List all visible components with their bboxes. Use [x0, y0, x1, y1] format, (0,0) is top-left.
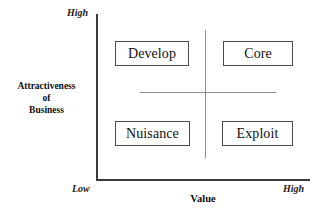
quadrant-matrix-figure: Develop Core Nuisance Exploit High Low H… [0, 0, 321, 209]
y-axis-line [96, 14, 98, 181]
y-axis-title-line-2: of [0, 92, 93, 104]
quadrant-vertical-divider [205, 30, 206, 158]
y-axis-high-label: High [67, 8, 88, 18]
y-axis-title-line-1: Attractiveness [0, 80, 93, 92]
y-axis-low-label: Low [72, 184, 90, 194]
quadrant-box-core: Core [223, 41, 293, 66]
y-axis-title-line-3: Business [0, 104, 93, 116]
y-axis-title: Attractiveness of Business [0, 80, 93, 116]
x-axis-title: Value [96, 192, 310, 205]
x-axis-line [96, 179, 310, 181]
quadrant-box-develop: Develop [115, 41, 189, 66]
quadrant-box-exploit: Exploit [222, 121, 293, 146]
quadrant-box-nuisance: Nuisance [115, 121, 190, 146]
quadrant-horizontal-divider [140, 92, 276, 93]
